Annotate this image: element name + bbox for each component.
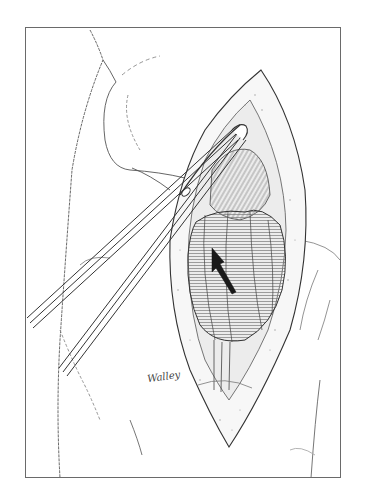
surgical-illustration <box>0 0 366 496</box>
